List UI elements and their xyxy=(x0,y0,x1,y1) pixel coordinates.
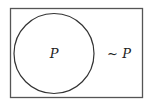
venn-diagram: P ~ P xyxy=(0,0,150,101)
complement-label: ~ P xyxy=(107,46,131,61)
set-p-label: P xyxy=(49,46,59,61)
